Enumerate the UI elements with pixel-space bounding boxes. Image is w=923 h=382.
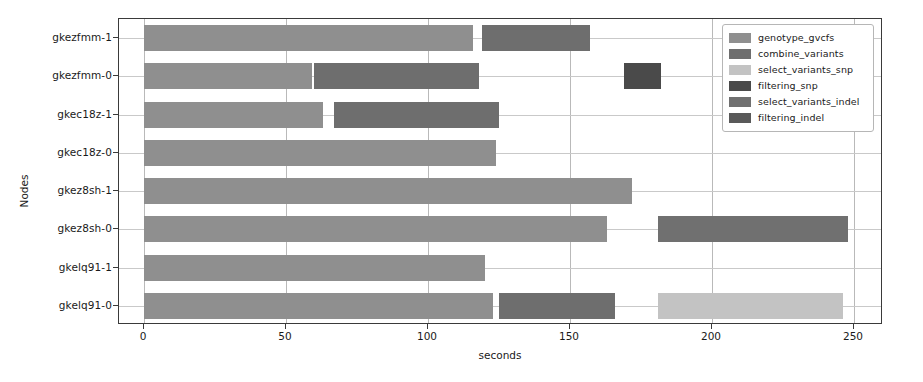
- chart-legend: genotype_gvcfscombine_variantsselect_var…: [722, 24, 874, 132]
- legend-item: select_variants_indel: [729, 94, 867, 109]
- bar-segment-select_variants_snp: [658, 293, 843, 319]
- bar-segment-combine_variants: [499, 293, 615, 319]
- x-axis-tick-label: 0: [140, 330, 147, 342]
- legend-swatch-icon: [729, 97, 751, 107]
- bar-segment-combine_variants: [334, 102, 499, 128]
- legend-label: combine_variants: [758, 48, 844, 59]
- legend-swatch-icon: [729, 113, 751, 123]
- bar-segment-select_variants_indel: [658, 216, 848, 242]
- legend-item: filtering_indel: [729, 110, 867, 125]
- x-axis-tick-mark: [569, 324, 570, 329]
- bar-segment-genotype_gvcfs: [144, 216, 607, 242]
- y-axis-tick-label: gkec18z-1: [46, 108, 112, 120]
- x-axis-title: seconds: [479, 349, 522, 361]
- legend-label: select_variants_snp: [758, 64, 853, 75]
- legend-item: select_variants_snp: [729, 62, 867, 77]
- y-axis-tick-label: gkez8sh-1: [46, 184, 112, 196]
- legend-swatch-icon: [729, 33, 751, 43]
- x-axis-tick-label: 100: [417, 330, 437, 342]
- x-axis-tick-label: 200: [701, 330, 721, 342]
- x-axis-tick-mark: [711, 324, 712, 329]
- x-axis-tick-label: 150: [559, 330, 579, 342]
- bar-segment-genotype_gvcfs: [144, 63, 312, 89]
- legend-label: genotype_gvcfs: [758, 32, 834, 43]
- gantt-chart-figure: Nodes gkezfmm-1gkezfmm-0gkec18z-1gkec18z…: [0, 0, 923, 382]
- y-axis-tick-label: gkezfmm-0: [46, 69, 112, 81]
- y-axis-tick-label: gkelq91-0: [46, 299, 112, 311]
- legend-label: filtering_snp: [758, 80, 818, 91]
- gridline-vertical: [570, 19, 571, 323]
- y-axis-tick-label: gkec18z-0: [46, 146, 112, 158]
- legend-label: filtering_indel: [758, 112, 824, 123]
- legend-label: select_variants_indel: [758, 96, 860, 107]
- legend-item: combine_variants: [729, 46, 867, 61]
- x-axis-tick-label: 250: [843, 330, 863, 342]
- y-axis-tick-label: gkelq91-1: [46, 261, 112, 273]
- bar-segment-combine_variants: [314, 63, 479, 89]
- y-axis-tick-label: gkez8sh-0: [46, 222, 112, 234]
- x-axis-tick-mark: [285, 324, 286, 329]
- legend-item: genotype_gvcfs: [729, 30, 867, 45]
- bar-segment-filtering_snp: [624, 63, 661, 89]
- y-axis-title: Nodes: [18, 175, 30, 208]
- legend-swatch-icon: [729, 81, 751, 91]
- bar-segment-combine_variants: [482, 25, 590, 51]
- bar-segment-genotype_gvcfs: [144, 140, 496, 166]
- x-axis-tick-mark: [427, 324, 428, 329]
- bar-segment-genotype_gvcfs: [144, 255, 485, 281]
- bar-segment-genotype_gvcfs: [144, 293, 493, 319]
- x-axis-tick-label: 50: [278, 330, 291, 342]
- legend-item: filtering_snp: [729, 78, 867, 93]
- legend-swatch-icon: [729, 65, 751, 75]
- bar-segment-genotype_gvcfs: [144, 102, 323, 128]
- bar-segment-genotype_gvcfs: [144, 178, 632, 204]
- legend-swatch-icon: [729, 49, 751, 59]
- x-axis-tick-mark: [853, 324, 854, 329]
- x-axis-tick-mark: [143, 324, 144, 329]
- bar-segment-genotype_gvcfs: [144, 25, 473, 51]
- y-axis-tick-label: gkezfmm-1: [46, 31, 112, 43]
- gridline-vertical: [712, 19, 713, 323]
